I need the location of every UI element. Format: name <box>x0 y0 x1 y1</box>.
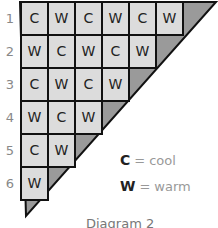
row-label: 5 <box>3 143 17 158</box>
cell-letter: W <box>48 142 75 158</box>
cell-letter: W <box>102 76 129 92</box>
cell-letter: W <box>75 109 102 125</box>
cell-letter: C <box>102 43 129 59</box>
cell-letter: W <box>102 10 129 26</box>
legend-value: warm <box>154 179 190 194</box>
legend-cool: C=cool <box>120 152 176 168</box>
cell-letter: C <box>48 43 75 59</box>
legend-eq: = <box>134 153 145 168</box>
row-label: 2 <box>3 44 17 59</box>
cell-letter: C <box>48 109 75 125</box>
cell-letter: C <box>75 10 102 26</box>
legend-value: cool <box>149 153 176 168</box>
cell-letter: C <box>21 76 48 92</box>
legend-warm: W=warm <box>120 178 191 194</box>
cell-letter: W <box>156 10 183 26</box>
cell-letter: C <box>21 10 48 26</box>
cell-letter: C <box>75 76 102 92</box>
legend-key: W <box>120 178 135 194</box>
cell-letter: W <box>21 175 48 191</box>
cell-letter: W <box>21 43 48 59</box>
cell-letter: W <box>48 10 75 26</box>
legend-eq: = <box>139 179 150 194</box>
cell-letter: W <box>48 76 75 92</box>
legend-key: C <box>120 152 130 168</box>
cell-letter: C <box>21 142 48 158</box>
diagram-caption: Diagram 2 <box>86 216 154 228</box>
row-label: 6 <box>3 176 17 191</box>
cell-letter: W <box>21 109 48 125</box>
cell-letter: W <box>129 43 156 59</box>
row-label: 3 <box>3 77 17 92</box>
cell-letter: W <box>75 43 102 59</box>
row-label: 1 <box>3 11 17 26</box>
row-label: 4 <box>3 110 17 125</box>
cell-letter: C <box>129 10 156 26</box>
